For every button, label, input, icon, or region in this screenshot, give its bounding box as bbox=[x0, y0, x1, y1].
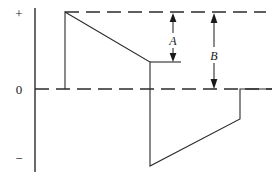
dimension-a-arrowhead-up bbox=[170, 13, 177, 22]
waveform-canvas: + 0 − A B bbox=[0, 0, 275, 179]
axis-label-zero: 0 bbox=[16, 82, 23, 97]
dimension-a-group: A bbox=[166, 13, 181, 62]
dimension-b-label: B bbox=[210, 49, 218, 63]
waveform-figure: + 0 − A B bbox=[0, 0, 275, 179]
dimension-b-arrowhead-down bbox=[211, 79, 218, 89]
dimension-a-arrowhead-down bbox=[170, 53, 177, 62]
dimension-a-label: A bbox=[168, 34, 177, 48]
axis-label-positive: + bbox=[15, 6, 22, 21]
dimension-b-arrowhead-up bbox=[211, 13, 218, 23]
dimension-b-group: B bbox=[207, 13, 222, 89]
axis-label-negative: − bbox=[15, 151, 22, 166]
